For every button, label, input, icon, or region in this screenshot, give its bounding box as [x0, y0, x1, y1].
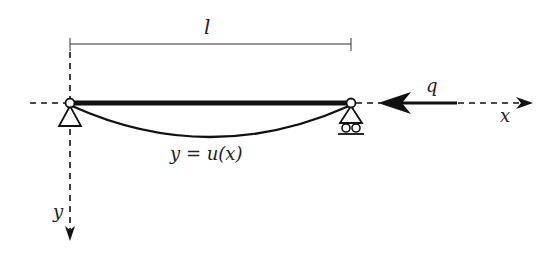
- roller-wheel-icon: [352, 124, 360, 132]
- load-arrow: [378, 92, 457, 114]
- deflection-curve: [72, 106, 349, 137]
- deflection-curve-label: y = u(x): [169, 143, 242, 164]
- pin-joint-icon: [66, 99, 75, 108]
- x-axis-label: x: [500, 105, 510, 126]
- pin-joint-icon: [347, 99, 356, 108]
- beam-diagram: l y x y = u(x) q: [0, 0, 559, 258]
- y-axis: [65, 52, 75, 241]
- dimension-line: [70, 38, 351, 51]
- y-axis-label: y: [52, 201, 64, 222]
- length-label: l: [204, 15, 210, 39]
- load-label: q: [426, 75, 438, 96]
- roller-wheel-icon: [342, 124, 350, 132]
